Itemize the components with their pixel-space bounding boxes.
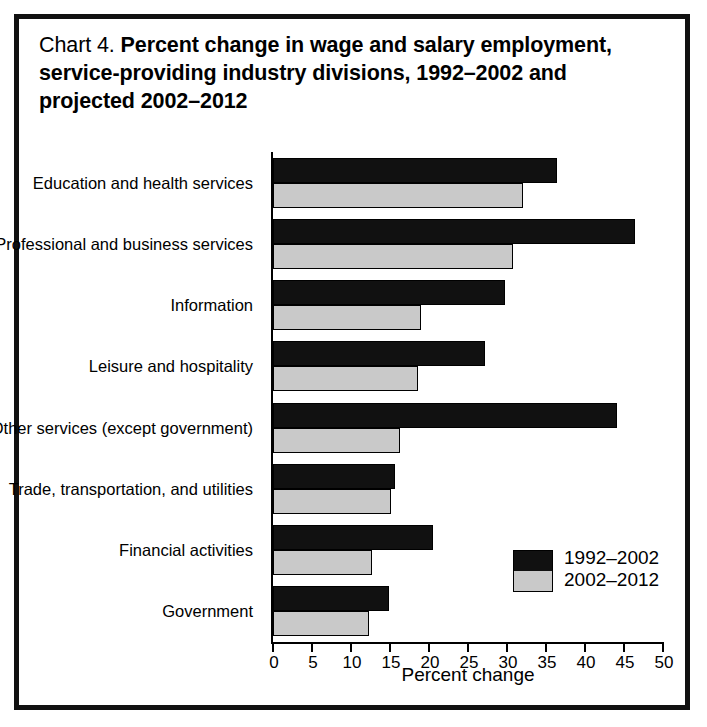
legend-label: 2002–2012	[564, 569, 659, 591]
category-label: Other services (except government)	[0, 418, 253, 437]
bar-group	[273, 586, 663, 636]
category-label: Professional and business services	[0, 234, 253, 253]
bar-1992-2002	[273, 280, 505, 305]
bar-group	[273, 219, 663, 269]
category-axis-labels: Education and health servicesProfessiona…	[19, 152, 263, 642]
chart-legend: 1992–20022002–2012	[513, 547, 659, 592]
bar-2002-2012	[273, 428, 400, 453]
bar-2002-2012	[273, 611, 369, 636]
legend-swatch	[514, 551, 552, 571]
category-label: Government	[162, 602, 253, 621]
category-label: Leisure and hospitality	[89, 357, 253, 376]
bar-1992-2002	[273, 341, 485, 366]
legend-label-group: 1992–20022002–2012	[564, 547, 659, 591]
x-tick-mark	[272, 644, 274, 652]
x-tick-mark	[506, 644, 508, 652]
legend-swatch	[514, 571, 552, 591]
x-tick-mark	[350, 644, 352, 652]
x-tick-mark	[623, 644, 625, 652]
bar-1992-2002	[273, 525, 433, 550]
bar-group	[273, 158, 663, 208]
x-tick-mark	[428, 644, 430, 652]
x-axis-title: Percent change	[273, 664, 663, 686]
bar-2002-2012	[273, 489, 391, 514]
chart-figure-frame: Chart 4. Percent change in wage and sala…	[14, 14, 690, 710]
bar-1992-2002	[273, 158, 557, 183]
bar-1992-2002	[273, 403, 617, 428]
bar-group	[273, 403, 663, 453]
x-tick-mark	[662, 644, 664, 652]
legend-swatch-group	[513, 550, 553, 592]
x-tick-mark	[545, 644, 547, 652]
chart-number-label: Chart 4.	[39, 33, 115, 57]
bar-group	[273, 341, 663, 391]
category-label: Education and health services	[33, 173, 253, 192]
bar-2002-2012	[273, 244, 513, 269]
x-tick-mark	[584, 644, 586, 652]
chart-title: Chart 4. Percent change in wage and sala…	[39, 31, 639, 115]
bar-2002-2012	[273, 305, 421, 330]
bar-1992-2002	[273, 464, 395, 489]
legend-label: 1992–2002	[564, 547, 659, 569]
x-tick-mark	[467, 644, 469, 652]
category-label: Financial activities	[119, 541, 253, 560]
bar-1992-2002	[273, 586, 389, 611]
bar-group	[273, 280, 663, 330]
chart-title-text: Percent change in wage and salary employ…	[39, 33, 612, 113]
bar-2002-2012	[273, 550, 372, 575]
bar-group	[273, 464, 663, 514]
bar-2002-2012	[273, 366, 418, 391]
category-label: Trade, transportation, and utilities	[9, 479, 253, 498]
x-tick-mark	[311, 644, 313, 652]
category-label: Information	[170, 296, 253, 315]
x-tick-mark	[389, 644, 391, 652]
bar-1992-2002	[273, 219, 635, 244]
bar-2002-2012	[273, 183, 523, 208]
